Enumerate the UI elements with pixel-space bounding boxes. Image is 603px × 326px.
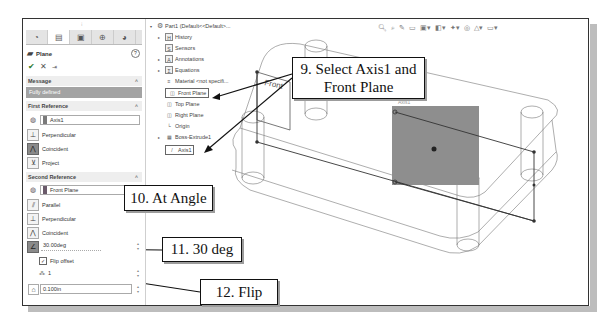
view-settings-icon[interactable]: ▭▾ [487,24,498,32]
sensors-icon: S [165,44,173,52]
tree-label: Origin [175,123,190,129]
tree-label: History [175,34,192,40]
zoom-to-fit-icon[interactable]: 🔍︎ [378,24,387,32]
flip-offset-checkbox[interactable]: ✓ Flip offset [39,257,74,265]
option-coincident[interactable]: ⋀ Coincident [27,143,68,155]
option-at-angle[interactable]: ∠ [27,241,39,253]
configuration-icon: ▣ [77,33,85,42]
angle-input[interactable]: 30.00deg [41,241,101,251]
tree-item-front-plane[interactable]: ◫ Front Plane [165,88,209,98]
zoom-to-area-icon[interactable]: ⌕ [391,24,395,32]
feature-tree-icon: ◔ [34,33,39,42]
tree-item-equations[interactable]: ▸ Σ Equations [158,66,199,74]
tree-root[interactable]: ▾ ⚙ Part1 (Default<<Default>... [150,22,231,30]
option-coincident-2[interactable]: ⋀ Coincident [27,227,68,239]
annotations-icon: A [165,55,173,63]
panel-grip[interactable]: ⁝ [81,21,83,27]
edit-appearance-icon[interactable]: ◎ [464,24,470,32]
dimxpert-icon: ⊕ [99,33,106,42]
tree-item-sensors[interactable]: S Sensors [158,44,195,52]
tree-item-axis1[interactable]: / Axis1 [165,145,194,155]
option-project[interactable]: ⊻ Project [27,157,59,169]
display-style-icon[interactable]: ◧▾ [435,24,446,32]
property-manager-panel: ⁝ ◔ ▤ ▣ ⊕ ◕ ▰ Plane ? ✔ ✕ ⇥ Message ^ Fu… [23,19,146,305]
callout-step-12: 12. Flip [200,279,278,305]
property-manager-icon: ▤ [55,33,63,42]
expand-icon[interactable]: ▸ [158,35,163,40]
expand-icon[interactable]: ▸ [158,57,163,62]
offset-spinner[interactable]: ▴▾ [135,285,141,294]
tree-label: Top Plane [175,101,199,107]
tree-label: Axis1 [178,147,191,153]
tab-dimxpert-manager[interactable]: ⊕ [92,30,114,44]
tree-item-top-plane[interactable]: ◫ Top Plane [165,100,199,108]
tree-item-boss-extrude[interactable]: ▸ ▦ Boss-Extrude1 [158,133,211,141]
manager-tabs: ◔ ▤ ▣ ⊕ ◕ [26,30,142,45]
tree-item-annotations[interactable]: ▸ A Annotations [158,55,204,63]
first-reference-header[interactable]: First Reference ^ [26,101,142,111]
instances-value[interactable]: 1 [48,270,51,276]
checkbox-label: Flip offset [50,258,74,264]
help-button[interactable]: ? [131,49,140,58]
tree-label: Right Plane [175,112,203,118]
field-value: Front Plane [50,187,78,193]
tab-configuration-manager[interactable]: ▣ [70,30,92,44]
first-reference-field[interactable]: Axis1 [40,115,140,125]
angle-spinner[interactable]: ▴▾ [135,242,141,251]
status-message: Fully defined [26,87,142,98]
project-icon: ⊻ [27,157,39,169]
option-parallel[interactable]: ⫽ Parallel [27,199,60,211]
pin-button[interactable]: ⇥ [52,62,57,73]
tree-item-history[interactable]: ▸ H History [158,33,192,41]
section-title: First Reference [28,103,68,109]
coincident-icon: ⋀ [27,227,39,239]
tree-item-origin[interactable]: └ Origin [165,122,190,130]
tab-property-manager[interactable]: ▤ [48,30,70,44]
reference-selector-icon: ◍ [28,115,37,124]
expand-icon[interactable]: ▸ [158,135,163,140]
extrude-icon: ▦ [165,133,173,141]
instances-icon: ⁂ [39,269,45,276]
tree-label: Equations [175,67,199,73]
expand-icon[interactable]: ▸ [158,68,163,73]
tab-display-manager[interactable]: ◕ [114,30,136,44]
instances-control: ⁂ 1 [39,269,51,276]
color-swatch [43,186,47,194]
callout-text: Front Plane [293,78,424,96]
message-section-header[interactable]: Message ^ [26,76,142,86]
option-perpendicular-2[interactable]: ⊥ Perpendicular [27,213,76,225]
plane-icon: ▰ [27,49,33,58]
view-orientation-icon[interactable]: ▣▾ [420,24,431,32]
ok-button[interactable]: ✔ [28,62,35,73]
offset-input[interactable]: 0.100in [40,284,132,294]
part-icon: ⚙ [157,22,163,30]
tree-item-right-plane[interactable]: ◫ Right Plane [165,111,203,119]
option-perpendicular[interactable]: ⊥ Perpendicular [27,129,76,141]
plane-icon: ◫ [165,100,173,108]
view-toolbar: 🔍︎ ⌕ ✎ ▭ ▣▾ ◧▾ ✦▾ ◎ △▾ ▭▾ [378,24,498,32]
preview-plane [392,106,479,185]
tree-label: Part1 (Default<<Default>... [165,23,231,29]
cancel-button[interactable]: ✕ [40,62,47,73]
coincident-icon: ⋀ [27,143,39,155]
expand-icon[interactable]: ▾ [150,24,155,29]
color-swatch [43,116,47,124]
tab-feature-manager[interactable]: ◔ [26,30,48,44]
instances-spinner[interactable]: ▴▾ [135,269,141,278]
feature-title: ▰ Plane [27,49,52,58]
tree-label: Sensors [175,45,195,51]
apply-scene-icon[interactable]: △▾ [474,24,483,32]
option-label: Perpendicular [42,132,76,138]
history-icon: H [165,33,173,41]
previous-view-icon[interactable]: ✎ [399,24,405,32]
equations-icon: Σ [165,66,173,74]
section-view-icon[interactable]: ▭ [409,24,416,32]
callout-step-9: 9. Select Axis1 and Front Plane [292,57,425,99]
callout-step-11: 11. 30 deg [162,237,242,262]
parallel-icon: ⫽ [27,199,39,211]
tree-item-material[interactable]: ≡ Material <not specifi... [158,77,229,85]
hide-show-items-icon[interactable]: ✦▾ [450,24,460,32]
option-label: Perpendicular [42,216,76,222]
option-label: Parallel [42,202,60,208]
second-reference-header[interactable]: Second Reference ^ [26,172,142,182]
